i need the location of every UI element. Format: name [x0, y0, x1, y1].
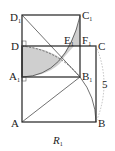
- label-d: D: [11, 40, 19, 52]
- label-c: C: [98, 40, 105, 52]
- label-a1: A1: [9, 70, 20, 83]
- geometry-figure: D1 C1 E1 F1 D C A1 B1 5 A B R1: [0, 0, 115, 151]
- label-b1: B1: [82, 70, 92, 83]
- label-f1: F1: [82, 34, 91, 47]
- label-length: 5: [102, 78, 108, 90]
- label-d1: D1: [10, 11, 21, 24]
- arc-b-b1: [80, 77, 96, 122]
- figure-caption: R1: [52, 134, 63, 147]
- label-c1: C1: [82, 9, 92, 22]
- label-b: B: [98, 117, 105, 129]
- segment-a-b1: [22, 77, 80, 122]
- label-e1: E1: [64, 34, 74, 47]
- label-a: A: [11, 117, 19, 129]
